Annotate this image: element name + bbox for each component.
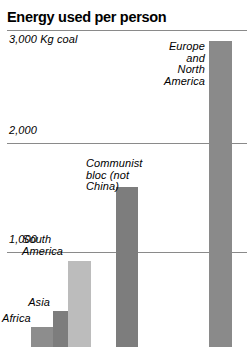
energy-bar-chart: Energy used per person 3,000 Kg coal2,00… [0, 0, 252, 347]
page-title: Energy used per person [7, 9, 166, 26]
bar-africa [31, 327, 53, 347]
bar-europe-north-america [209, 41, 232, 347]
bar-label-africa: Africa [2, 313, 30, 325]
bar-label-communist-bloc: Communist bloc (not China) [86, 158, 160, 193]
bar-label-europe-north-america: Europe and North America [150, 41, 205, 87]
bar-label-asia: Asia [22, 297, 50, 309]
tick-label-3000: 3,000 Kg coal [9, 33, 78, 46]
gridline-3000 [7, 30, 247, 31]
tick-label-2000: 2,000 [9, 124, 37, 137]
bar-south-america [68, 261, 91, 347]
bar-label-south-america: South America [22, 234, 64, 257]
bar-communist-bloc [116, 187, 138, 347]
